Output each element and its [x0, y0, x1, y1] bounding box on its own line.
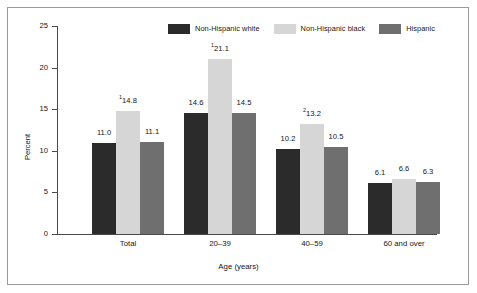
y-tick-label: 25: [40, 21, 48, 30]
bar-group-total: 11.0 114.8 11.1 Total: [83, 26, 173, 234]
bar-value-label: 11.0: [97, 128, 111, 137]
bar-non-hispanic-black[interactable]: [300, 124, 324, 234]
bar-item[interactable]: 213.2: [300, 26, 324, 234]
bar-non-hispanic-white[interactable]: [92, 143, 116, 235]
bar-group-60-and-over: 6.1 6.6 6.3 60 and over: [359, 26, 449, 234]
chart-figure: Non-Hispanic white Non-Hispanic black Hi…: [0, 0, 477, 293]
bar-value-label: 14.6: [189, 98, 204, 107]
bar-item[interactable]: 10.2: [276, 26, 300, 234]
bar-item[interactable]: 121.1: [208, 26, 232, 234]
bar-value-label: 6.3: [423, 167, 434, 176]
bar-non-hispanic-black[interactable]: [116, 111, 140, 234]
bar-group-40-59: 10.2 213.2 10.5 40–59: [267, 26, 357, 234]
x-tick-label-40-59: 40–59: [301, 239, 323, 249]
bar-value-label: 14.5: [237, 98, 252, 107]
bar-non-hispanic-white[interactable]: [368, 183, 392, 234]
bar-hispanic[interactable]: [140, 142, 164, 234]
bar-item[interactable]: 14.6: [184, 26, 208, 234]
bar-item[interactable]: 114.8: [116, 26, 140, 234]
bar-non-hispanic-white[interactable]: [276, 149, 300, 234]
bar-item[interactable]: 10.5: [324, 26, 348, 234]
bar-value-label: 6.6: [399, 164, 410, 173]
y-tick-15: 15: [52, 109, 57, 110]
bar-value-label: 6.1: [375, 168, 386, 177]
bar-value-label: 11.1: [145, 127, 159, 136]
y-tick-label: 5: [44, 187, 48, 196]
x-axis-title: Age (years): [0, 262, 477, 271]
y-tick-5: 5: [52, 192, 57, 193]
y-tick-0: 0: [52, 234, 57, 235]
bar-non-hispanic-white[interactable]: [184, 113, 208, 234]
bar-hispanic[interactable]: [324, 147, 348, 234]
y-tick-label: 15: [40, 104, 48, 113]
bar-item[interactable]: 6.3: [416, 26, 440, 234]
y-axis-line: [57, 26, 58, 234]
y-tick-label: 10: [40, 146, 48, 155]
bar-value-label: 213.2: [303, 109, 321, 118]
bar-non-hispanic-black[interactable]: [208, 59, 232, 235]
bar-item[interactable]: 11.1: [140, 26, 164, 234]
bar-group-20-39: 14.6 121.1 14.5 20–39: [175, 26, 265, 234]
x-tick-label-60-and-over: 60 and over: [383, 239, 424, 249]
x-axis-line: [57, 234, 437, 235]
y-tick-label: 0: [44, 229, 48, 238]
bar-item[interactable]: 14.5: [232, 26, 256, 234]
bar-value-label: 121.1: [211, 44, 229, 53]
x-tick-label-20-39: 20–39: [209, 239, 231, 249]
y-tick-10: 10: [52, 151, 57, 152]
bar-value-label: 10.2: [281, 134, 296, 143]
y-tick-20: 20: [52, 68, 57, 69]
x-tick-label-total: Total: [120, 239, 136, 249]
bar-hispanic[interactable]: [416, 182, 440, 234]
bar-hispanic[interactable]: [232, 113, 256, 234]
bar-item[interactable]: 11.0: [92, 26, 116, 234]
plot-area: 25 20 15 10 5 0 11.0 114.8: [57, 26, 445, 234]
y-tick-label: 20: [40, 63, 48, 72]
bar-value-label: 10.5: [329, 132, 344, 141]
y-tick-25: 25: [52, 26, 57, 27]
bar-non-hispanic-black[interactable]: [392, 179, 416, 234]
bar-value-label: 114.8: [119, 96, 137, 105]
y-axis-title: Percent: [23, 133, 32, 159]
bar-item[interactable]: 6.6: [392, 26, 416, 234]
bar-item[interactable]: 6.1: [368, 26, 392, 234]
